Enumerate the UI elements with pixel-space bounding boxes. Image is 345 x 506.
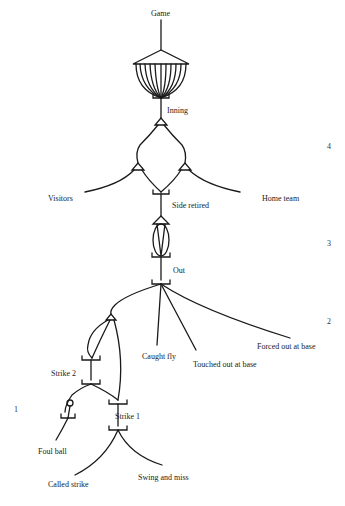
node-called-strike: Called strike — [48, 481, 89, 489]
node-out: Out — [173, 267, 185, 275]
node-visitors: Visitors — [48, 195, 73, 203]
node-swing-and-miss: Swing and miss — [138, 474, 189, 482]
node-caught-fly: Caught fly — [142, 353, 176, 361]
node-home-team: Home team — [262, 195, 299, 203]
level-label-1: 1 — [14, 406, 18, 414]
node-game: Game — [151, 10, 170, 18]
node-touched-out: Touched out at base — [193, 361, 257, 369]
diagram-canvas — [0, 0, 345, 506]
game-cup-top — [133, 50, 189, 64]
node-inning: Inning — [167, 107, 188, 115]
node-strike-1: Strike 1 — [115, 413, 140, 421]
node-foul-ball: Foul ball — [38, 448, 67, 456]
node-side-retired: Side retired — [172, 202, 209, 210]
node-strike-2: Strike 2 — [51, 370, 76, 378]
level-label-3: 3 — [327, 240, 331, 248]
inning-triangle — [155, 118, 167, 125]
node-forced-out: Forced out at base — [257, 343, 315, 351]
level-label-2: 2 — [327, 318, 331, 326]
level-label-4: 4 — [327, 143, 331, 151]
